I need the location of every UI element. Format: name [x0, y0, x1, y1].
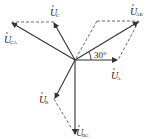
svg-text:AB: AB — [136, 12, 144, 17]
svg-text:BC: BC — [82, 133, 89, 138]
dashed-right-ab — [118, 21, 139, 60]
label-uc: U C — [50, 5, 60, 18]
dashed-b-to-bc — [54, 99, 75, 134]
phasor-diagram: 30° U C U CA U AB U A U B U BC — [0, 0, 148, 139]
phasor-ub — [55, 60, 75, 98]
svg-text:CA: CA — [10, 40, 17, 45]
label-ub: U B — [39, 92, 49, 105]
svg-text:C: C — [56, 13, 60, 18]
svg-text:A: A — [117, 76, 121, 81]
label-uab: U AB — [130, 4, 144, 17]
phasor-uca — [12, 23, 75, 60]
angle-arc — [89, 52, 91, 60]
label-ubc: U BC — [76, 125, 89, 138]
angle-label: 30° — [94, 50, 107, 60]
svg-text:B: B — [45, 100, 49, 105]
label-ua: U A — [111, 68, 121, 81]
label-uca: U CA — [4, 32, 17, 45]
